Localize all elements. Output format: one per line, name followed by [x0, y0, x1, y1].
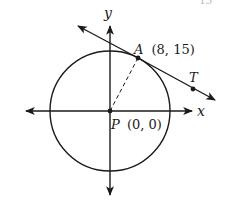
cutoff-text: 15	[199, 0, 212, 7]
point-t-label: T	[189, 70, 199, 85]
tangent-line	[78, 26, 138, 58]
y-axis-label: y	[103, 5, 113, 21]
circle-tangent-diagram: 15 y x A (8, 15) T P (0, 0)	[0, 0, 225, 206]
radius-pa-dashed	[110, 58, 138, 111]
point-p-label: P (0, 0)	[110, 117, 162, 132]
point-a-label: A (8, 15)	[133, 42, 195, 57]
point-p	[108, 109, 113, 114]
tangent-line-right	[138, 58, 215, 100]
x-axis-label: x	[197, 103, 205, 119]
point-t	[191, 87, 196, 92]
